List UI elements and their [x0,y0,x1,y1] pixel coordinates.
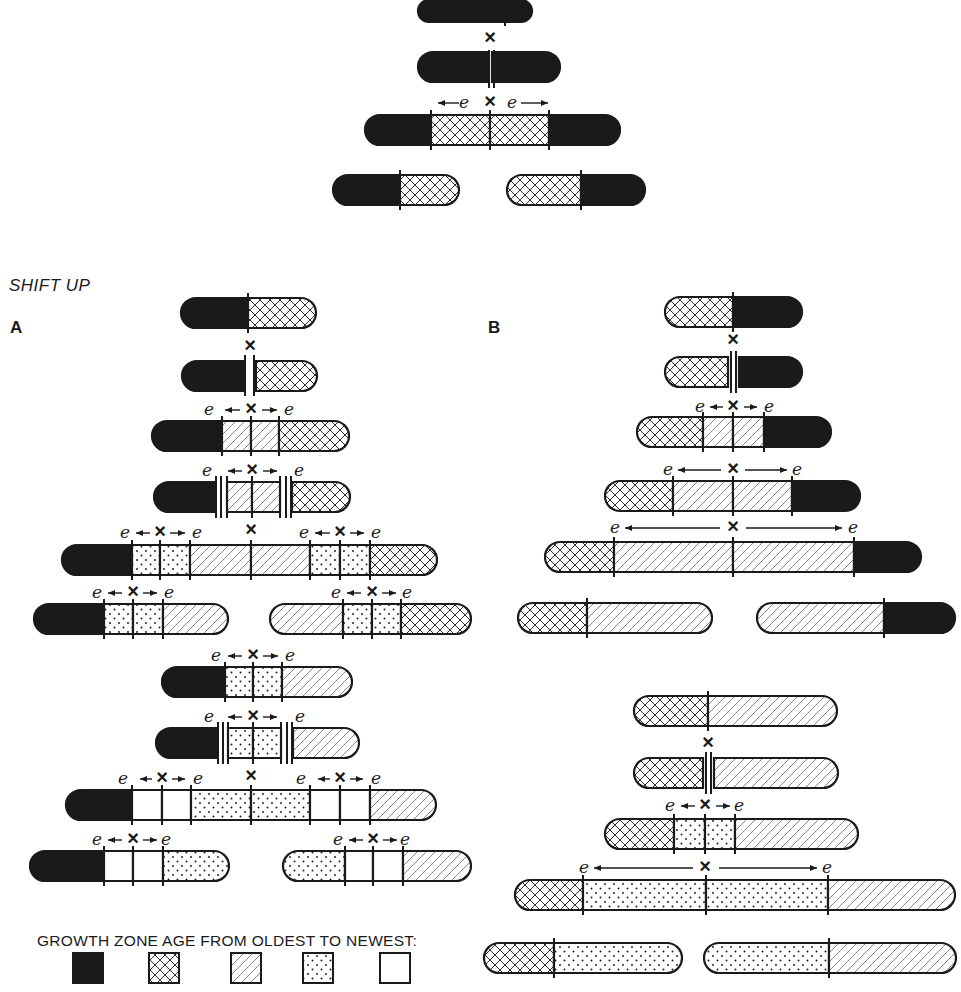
elongation-label: e [764,396,774,416]
cell-A1 [182,361,317,391]
arrow-right-icon [716,803,730,809]
arrow-right-icon [263,714,277,720]
zone-dots [372,604,401,634]
zone-crosshatch [431,115,490,145]
zone-hatch [703,417,733,447]
zone-hatch [733,542,854,572]
elongation-label: e [92,829,102,849]
elongation-label: e [118,768,128,788]
elongation-label: e [734,795,744,815]
zone-black [156,728,216,758]
division-site-icon: × [334,766,346,788]
cell-B2 [605,819,858,849]
zone-crosshatch [665,297,733,327]
cell-B2 [484,943,682,973]
arrow-left-icon [678,467,721,473]
cell-A2 [162,667,352,697]
zone-blank [373,851,403,881]
zone-hatch [828,880,955,910]
elongation-label: e [294,460,304,480]
zone-black [333,175,400,205]
zone-hatch [735,819,858,849]
elongation-label: e [285,645,295,665]
zone-dots [674,819,705,849]
zone-hatch [293,728,359,758]
elongation-label: e [507,92,517,112]
cell-top [365,115,620,145]
arrow-left-icon [225,407,240,413]
cell-B1 [518,603,712,633]
zone-black [34,604,104,634]
zone-hatch [251,421,279,451]
zone-hatch [370,790,436,820]
arrow-left-icon [228,468,242,474]
zone-hatch [733,417,764,447]
division-site-icon: × [366,580,378,602]
zone-black [182,361,243,391]
zone-blank [162,790,191,820]
elongation-label: e [371,522,381,542]
zone-crosshatch [518,603,587,633]
zone-hatch [222,421,251,451]
zone-black [792,481,860,511]
zone-black [854,542,921,572]
zone-crosshatch [292,482,350,512]
zone-crosshatch [634,696,708,726]
division-site-icon: × [699,793,711,815]
zone-dots [133,604,163,634]
division-site-icon: × [699,855,711,877]
legend-swatch-middle [231,953,261,983]
zone-blank [340,790,370,820]
zone-dots [160,545,190,575]
arrow-right-icon [521,100,548,106]
elongation-label: e [822,857,832,877]
zone-dots [554,943,682,973]
elongation-label: e [284,399,294,419]
zone-black [365,115,431,145]
division-site-icon: × [727,394,739,416]
zone-black [418,0,532,22]
division-site-icon: × [702,731,714,753]
arrow-left-icon [594,865,693,871]
arrow-right-icon [745,467,787,473]
arrow-right-icon [143,837,157,843]
zone-blank [345,851,373,881]
zone-dots [163,851,229,881]
panel-label-a: A [10,318,22,338]
elongation-label: e [204,399,214,419]
elongation-label: e [204,706,214,726]
zone-black [764,417,831,447]
elongation-label: e [848,517,858,537]
arrow-right-icon [262,407,277,413]
zone-dots [340,545,370,575]
elongation-label: e [695,396,705,416]
zone-crosshatch [400,175,459,205]
arrow-left-icon [710,404,723,410]
arrow-left-icon [108,590,122,596]
zone-hatch [757,603,884,633]
zone-crosshatch [634,758,703,788]
division-site-icon: × [156,766,168,788]
division-site-icon: × [154,520,166,542]
zone-dots [343,604,372,634]
arrow-left-icon [347,590,361,596]
elongation-label: e [299,522,309,542]
zone-blank [132,790,162,820]
zone-crosshatch [507,175,581,205]
legend-swatches [73,953,410,983]
cell-B1 [665,357,802,387]
cell-top [333,175,459,205]
division-site-icon: × [244,334,256,356]
zone-crosshatch [256,361,317,391]
elongation-label: e [211,645,221,665]
elongation-label: e [193,768,203,788]
arrow-left-icon [318,776,330,782]
zone-hatch [270,604,343,634]
zone-black [884,603,955,633]
zone-blank [310,790,340,820]
zone-black [733,297,802,327]
zone-hatch [403,851,471,881]
elongation-label: e [331,582,341,602]
elongation-label: e [164,582,174,602]
arrow-left-icon [315,530,330,536]
